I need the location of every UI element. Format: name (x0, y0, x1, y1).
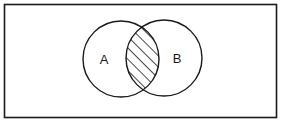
set-a-label: A (100, 52, 109, 67)
set-b-label: B (173, 51, 182, 66)
venn-diagram: A B (0, 0, 283, 121)
